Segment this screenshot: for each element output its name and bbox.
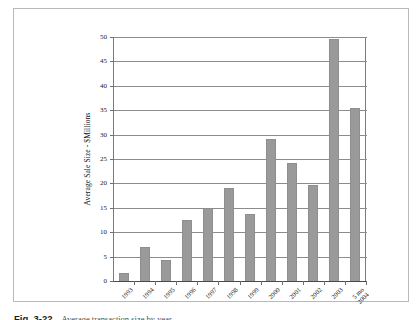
bar [119, 273, 129, 281]
x-tick [176, 281, 177, 285]
x-tick [324, 281, 325, 285]
y-tick-label: 50 [100, 33, 107, 41]
figure-caption-text: Average transaction size by year [62, 314, 172, 320]
bar [140, 247, 150, 281]
figure-caption: Fig. 3-22 Average transaction size by ye… [14, 308, 414, 320]
x-tick [366, 281, 367, 285]
figure-frame: Average Sale Size - $Millions 0510152025… [13, 8, 409, 302]
x-tick [134, 281, 135, 285]
y-tick-label: 10 [100, 228, 107, 236]
bar [245, 214, 255, 281]
x-tick [282, 281, 283, 285]
bar [329, 39, 339, 281]
bar [350, 108, 360, 281]
y-tick-label: 5 [104, 253, 108, 261]
x-tick [155, 281, 156, 285]
bars-layer [113, 37, 366, 281]
y-tick-label: 30 [100, 131, 107, 139]
y-tick-label: 45 [100, 57, 107, 65]
y-tick-label: 15 [100, 204, 107, 212]
y-tick-label: 25 [100, 155, 107, 163]
y-tick-label: 40 [100, 82, 107, 90]
bar [182, 220, 192, 281]
x-tick [345, 281, 346, 285]
bar [308, 185, 318, 281]
x-tick [303, 281, 304, 285]
bar [203, 208, 213, 281]
y-tick-label: 35 [100, 106, 107, 114]
figure-number: Fig. 3-22 [14, 313, 53, 320]
x-tick [261, 281, 262, 285]
x-tick [197, 281, 198, 285]
y-axis-labels: 05101520253035404550 [14, 37, 113, 281]
x-tick [240, 281, 241, 285]
bar [287, 163, 297, 281]
y-tick-label: 0 [104, 277, 108, 285]
bar [266, 139, 276, 281]
bar [224, 188, 234, 281]
bar [161, 260, 171, 281]
x-tick [218, 281, 219, 285]
y-tick-label: 20 [100, 179, 107, 187]
